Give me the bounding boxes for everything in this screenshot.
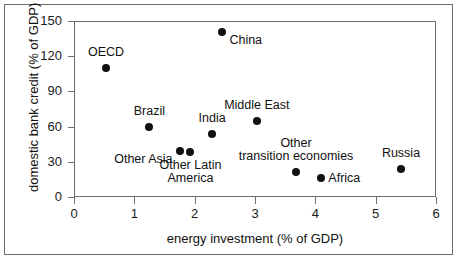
y-axis-tick [68, 127, 75, 128]
data-point [176, 147, 184, 155]
x-axis-tick [376, 197, 377, 204]
x-axis-tick-label: 2 [180, 207, 210, 221]
x-axis-tick [315, 197, 316, 204]
x-axis-tick [255, 197, 256, 204]
data-point [397, 165, 405, 173]
x-axis-tick [134, 197, 135, 204]
x-axis-tick [74, 197, 75, 204]
data-point [253, 117, 261, 125]
x-axis-tick [195, 197, 196, 204]
data-point [102, 64, 110, 72]
data-point-label: Africa [328, 172, 360, 185]
scatter-chart-figure: 0306090120150 0123456 domestic bank cred… [0, 0, 459, 261]
y-axis-tick [68, 91, 75, 92]
data-point [218, 28, 226, 36]
x-axis-tick [436, 197, 437, 204]
x-axis-title: energy investment (% of GDP) [74, 231, 436, 246]
data-point-label: China [229, 34, 262, 47]
x-axis-tick-label: 4 [300, 207, 330, 221]
data-point [145, 123, 153, 131]
data-point-label: Other transition economies [239, 137, 354, 163]
x-axis-tick-label: 0 [59, 207, 89, 221]
y-axis-tick [68, 162, 75, 163]
y-axis-tick [68, 56, 75, 57]
data-point-label: Brazil [134, 105, 165, 118]
y-axis-title: domestic bank credit (% of GDP) [26, 16, 41, 192]
x-axis-tick-label: 6 [421, 207, 451, 221]
x-axis-tick-label: 1 [119, 207, 149, 221]
data-point-label: Russia [382, 147, 420, 160]
data-point-label: Other Latin America [160, 159, 222, 185]
x-axis-tick-label: 5 [361, 207, 391, 221]
data-point-label: Middle East [224, 99, 289, 112]
data-point-label: OECD [88, 46, 124, 59]
data-point-label: India [199, 112, 226, 125]
data-point [208, 130, 216, 138]
x-axis-tick-label: 3 [240, 207, 270, 221]
y-axis-tick [68, 21, 75, 22]
